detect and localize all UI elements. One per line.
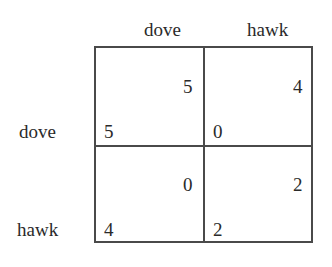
grid-divider-horizontal	[94, 145, 313, 147]
cell-hh-column-payoff: 2	[293, 175, 303, 194]
column-header-hawk: hawk	[247, 20, 288, 39]
cell-dh-column-payoff: 4	[293, 77, 303, 96]
cell-dd-row-payoff: 5	[104, 122, 114, 141]
cell-hd-row-payoff: 4	[104, 220, 114, 239]
column-header-dove: dove	[144, 20, 181, 39]
cell-hd-column-payoff: 0	[183, 175, 193, 194]
row-header-hawk: hawk	[17, 220, 58, 239]
cell-dh-row-payoff: 0	[213, 122, 223, 141]
row-header-dove: dove	[19, 122, 56, 141]
cell-dd-column-payoff: 5	[183, 77, 193, 96]
cell-hh-row-payoff: 2	[213, 220, 223, 239]
